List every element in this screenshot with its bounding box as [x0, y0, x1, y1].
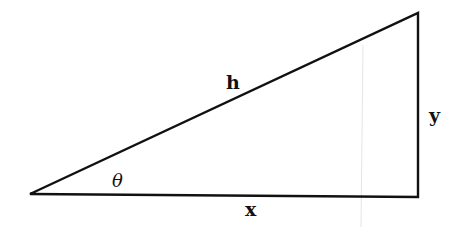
adjacent-side-label: x [245, 198, 257, 220]
faint-scan-line [361, 45, 363, 227]
hypotenuse-label: h [226, 71, 240, 93]
triangle-outline [30, 13, 418, 197]
opposite-side-label: y [428, 104, 441, 126]
angle-label: θ [112, 170, 123, 191]
right-triangle-diagram: h y x θ [0, 0, 466, 227]
